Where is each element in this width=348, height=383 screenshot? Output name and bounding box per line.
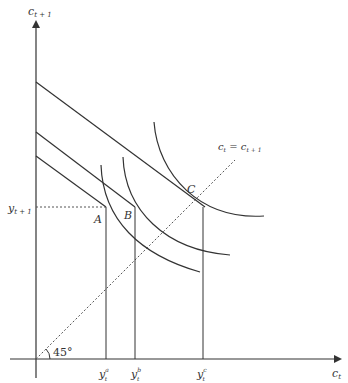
point-c-label: C [187, 183, 196, 196]
y-tick-label: yt + 1 [7, 202, 32, 216]
consumption-diagram: ct + 1 ct 45° ct = ct + 1 yt + 1 A B C y… [0, 0, 348, 383]
indifference-curve-a [101, 165, 200, 272]
diagonal-label: ct = ct + 1 [218, 141, 261, 153]
x-tick-yb: ybt [130, 366, 141, 382]
x-tick-ya: yat [98, 366, 109, 382]
point-a-label: A [93, 213, 102, 226]
budget-line-low [36, 156, 106, 207]
indifference-curve-b [123, 157, 230, 255]
angle-arc [46, 349, 50, 359]
indifference-curve-c [154, 122, 264, 216]
point-b-label: B [123, 209, 132, 222]
angle-label: 45° [53, 346, 73, 359]
budget-line-high [36, 82, 205, 207]
y-axis-label: ct + 1 [28, 5, 52, 19]
x-tick-yc: yct [196, 366, 207, 382]
budget-line-mid [36, 132, 135, 207]
x-axis-label: ct [332, 367, 341, 381]
